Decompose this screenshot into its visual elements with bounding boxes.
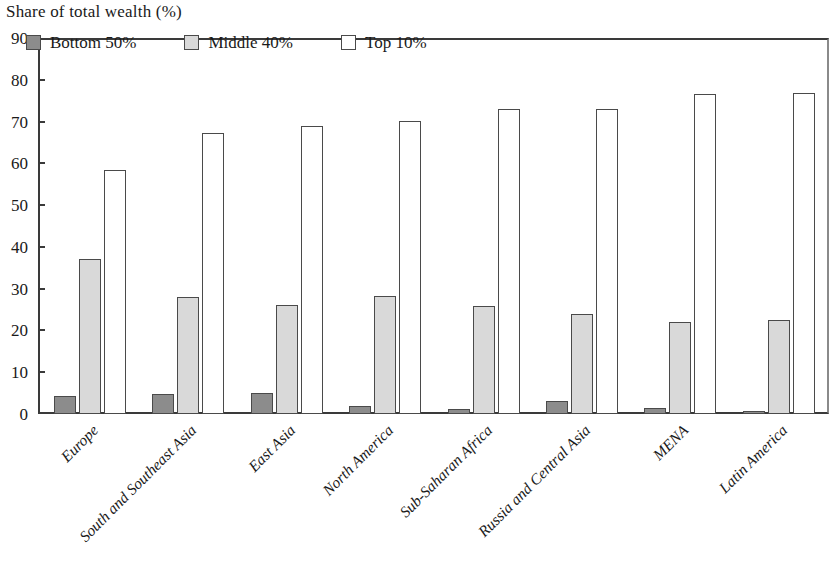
bar[interactable] bbox=[793, 93, 815, 414]
bar[interactable] bbox=[498, 109, 520, 414]
y-tick-mark bbox=[38, 371, 45, 373]
bar[interactable] bbox=[177, 297, 199, 414]
x-axis: EuropeSouth and Southeast AsiaEast AsiaN… bbox=[0, 414, 831, 585]
bar[interactable] bbox=[374, 296, 396, 414]
x-tick-label: Sub-Saharan Africa bbox=[396, 422, 494, 520]
bar-chart: Share of total wealth (%) 01020304050607… bbox=[0, 0, 831, 585]
bar-group bbox=[152, 38, 224, 414]
y-tick-label: 80 bbox=[11, 71, 28, 88]
y-tick-mark bbox=[38, 121, 45, 123]
y-tick-label: 70 bbox=[11, 113, 28, 130]
bar[interactable] bbox=[669, 322, 691, 414]
bar[interactable] bbox=[349, 406, 371, 414]
bar[interactable] bbox=[571, 314, 593, 414]
y-tick-mark bbox=[38, 246, 45, 248]
bar[interactable] bbox=[276, 305, 298, 414]
bar-group bbox=[349, 38, 421, 414]
bar-group bbox=[54, 38, 126, 414]
bar[interactable] bbox=[104, 170, 126, 414]
x-tick-label: Latin America bbox=[716, 422, 790, 496]
bar[interactable] bbox=[399, 121, 421, 414]
x-tick-label: North America bbox=[320, 422, 396, 498]
x-tick-label: South and Southeast Asia bbox=[77, 422, 199, 544]
x-tick-label: Russia and Central Asia bbox=[475, 422, 593, 540]
y-tick-label: 10 bbox=[11, 364, 28, 381]
y-axis: 0102030405060708090 bbox=[0, 38, 34, 414]
x-tick-label: MENA bbox=[650, 422, 691, 463]
y-tick-label: 20 bbox=[11, 322, 28, 339]
bar[interactable] bbox=[251, 393, 273, 414]
bar[interactable] bbox=[79, 259, 101, 414]
bar[interactable] bbox=[202, 133, 224, 414]
bars-layer bbox=[40, 38, 827, 414]
bar[interactable] bbox=[152, 394, 174, 414]
bar-group bbox=[743, 38, 815, 414]
y-tick-mark bbox=[38, 79, 45, 81]
y-tick-mark bbox=[38, 329, 45, 331]
y-tick-label: 40 bbox=[11, 238, 28, 255]
y-tick-mark bbox=[38, 288, 45, 290]
bar[interactable] bbox=[301, 126, 323, 414]
bar-group bbox=[251, 38, 323, 414]
bar[interactable] bbox=[54, 396, 76, 414]
bar[interactable] bbox=[768, 320, 790, 414]
y-tick-label: 50 bbox=[11, 197, 28, 214]
x-tick-label: East Asia bbox=[245, 422, 297, 474]
bar[interactable] bbox=[596, 109, 618, 414]
bar[interactable] bbox=[694, 94, 716, 414]
y-tick-mark bbox=[38, 204, 45, 206]
y-tick-mark bbox=[38, 162, 45, 164]
bar[interactable] bbox=[546, 401, 568, 414]
y-tick-label: 60 bbox=[11, 155, 28, 172]
x-tick-label: Europe bbox=[58, 422, 101, 465]
bar-group bbox=[448, 38, 520, 414]
bar[interactable] bbox=[473, 306, 495, 414]
page-title: Share of total wealth (%) bbox=[6, 2, 182, 22]
bar-group bbox=[546, 38, 618, 414]
legend-swatch-icon bbox=[26, 35, 41, 50]
y-tick-label: 30 bbox=[11, 280, 28, 297]
bar-group bbox=[644, 38, 716, 414]
